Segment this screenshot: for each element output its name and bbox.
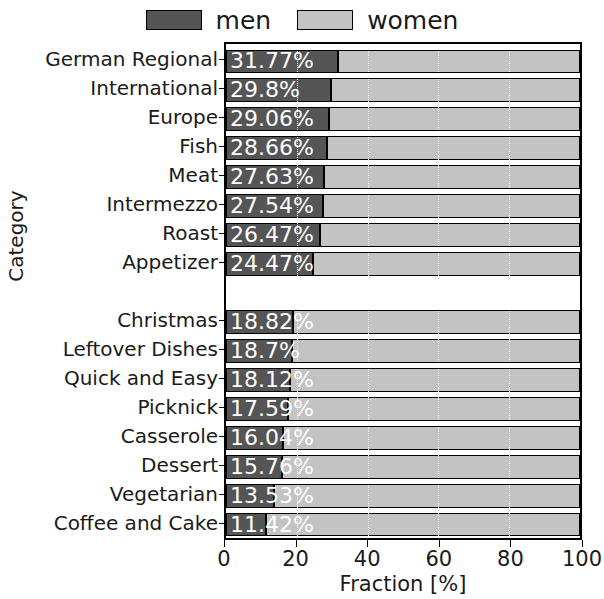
bar-row: 16.04% — [226, 426, 580, 449]
y-tick-mark — [219, 175, 224, 176]
y-tick-mark — [219, 146, 224, 147]
y-tick-mark — [219, 117, 224, 118]
bar-segment-women — [338, 50, 580, 73]
y-tick-mark — [219, 378, 224, 379]
bar-segment-women — [329, 107, 580, 130]
bar-row: 31.77% — [226, 50, 580, 73]
bar-segment-women — [288, 397, 580, 420]
bar-segment-women — [313, 252, 580, 275]
y-tick-label: German Regional — [0, 49, 218, 69]
bar-segment-men — [226, 136, 327, 159]
bar-segment-men — [226, 310, 293, 333]
legend-entry-women: women — [297, 8, 458, 33]
bar-segment-women — [331, 78, 580, 101]
x-tick-label: 100 — [562, 549, 602, 570]
bar-segment-men — [226, 78, 331, 101]
bar-row: 29.06% — [226, 107, 580, 130]
bar-segment-men — [226, 252, 313, 275]
bar-row: 27.63% — [226, 165, 580, 188]
legend-entry-men: men — [146, 8, 298, 33]
plot-inner: 31.77%29.8%29.06%28.66%27.63%27.54%26.47… — [226, 44, 580, 538]
y-tick-mark — [219, 262, 224, 263]
bar-segment-men — [226, 455, 282, 478]
legend-label-men: men — [216, 8, 272, 33]
y-tick-mark — [219, 523, 224, 524]
x-tick-mark — [510, 540, 511, 547]
x-tick-mark — [582, 540, 583, 547]
bar-segment-women — [292, 339, 580, 362]
y-tick-label: Coffee and Cake — [0, 513, 218, 533]
y-tick-label: International — [0, 78, 218, 98]
bar-segment-women — [323, 194, 580, 217]
bar-row: 28.66% — [226, 136, 580, 159]
y-tick-label: Quick and Easy — [0, 368, 218, 388]
x-tick-label: 60 — [425, 549, 452, 570]
bar-row: 18.82% — [226, 310, 580, 333]
x-tick-label: 40 — [354, 549, 381, 570]
bar-segment-men — [226, 165, 324, 188]
x-tick-label: 20 — [282, 549, 309, 570]
x-tick-label: 80 — [497, 549, 524, 570]
y-tick-mark — [219, 233, 224, 234]
bar-row: 24.47% — [226, 252, 580, 275]
bar-segment-men — [226, 50, 338, 73]
bar-segment-women — [290, 368, 580, 391]
y-tick-mark — [219, 59, 224, 60]
x-axis-ticks: 020406080100 — [224, 540, 582, 574]
y-tick-mark — [219, 465, 224, 466]
bar-segment-women — [266, 513, 580, 536]
bar-row: 18.7% — [226, 339, 580, 362]
legend-label-women: women — [367, 8, 458, 33]
y-tick-mark — [219, 436, 224, 437]
bar-segment-women — [283, 426, 580, 449]
y-tick-label: Dessert — [0, 455, 218, 475]
bar-segment-women — [324, 165, 580, 188]
bar-segment-men — [226, 426, 283, 449]
bar-chart-figure: men women Category 31.77%29.8%29.06%28.6… — [0, 0, 604, 599]
y-tick-label: Roast — [0, 223, 218, 243]
y-tick-mark — [219, 349, 224, 350]
y-tick-mark — [219, 407, 224, 408]
y-tick-label: Casserole — [0, 426, 218, 446]
y-tick-mark — [219, 88, 224, 89]
y-tick-label: Intermezzo — [0, 194, 218, 214]
y-tick-mark — [219, 494, 224, 495]
bar-row: 13.53% — [226, 484, 580, 507]
x-tick-mark — [224, 540, 225, 547]
bar-segment-women — [282, 455, 580, 478]
bar-segment-men — [226, 107, 329, 130]
bar-row: 15.76% — [226, 455, 580, 478]
x-tick-label: 0 — [217, 549, 230, 570]
bar-row: 11.42% — [226, 513, 580, 536]
y-tick-label: Leftover Dishes — [0, 339, 218, 359]
bar-segment-men — [226, 397, 288, 420]
bar-segment-men — [226, 194, 323, 217]
y-tick-label: Christmas — [0, 310, 218, 330]
y-tick-label: Europe — [0, 107, 218, 127]
y-tick-mark — [219, 204, 224, 205]
bar-segment-men — [226, 484, 274, 507]
bar-row: 29.8% — [226, 78, 580, 101]
bar-row: 26.47% — [226, 223, 580, 246]
bar-segment-women — [293, 310, 580, 333]
x-tick-mark — [439, 540, 440, 547]
bar-row: 27.54% — [226, 194, 580, 217]
bar-segment-men — [226, 223, 320, 246]
bar-segment-men — [226, 339, 292, 362]
plot-area: 31.77%29.8%29.06%28.66%27.63%27.54%26.47… — [224, 42, 582, 540]
y-tick-label: Appetizer — [0, 252, 218, 272]
y-tick-label: Picknick — [0, 397, 218, 417]
bar-segment-women — [320, 223, 580, 246]
x-tick-mark — [296, 540, 297, 547]
bar-segment-women — [327, 136, 580, 159]
bar-segment-women — [274, 484, 580, 507]
y-tick-label: Vegetarian — [0, 484, 218, 504]
bar-segment-men — [226, 368, 290, 391]
bar-segment-men — [226, 513, 266, 536]
legend-swatch-women — [297, 10, 353, 30]
y-tick-label: Fish — [0, 136, 218, 156]
chart-legend: men women — [0, 4, 604, 36]
x-tick-mark — [367, 540, 368, 547]
y-tick-mark — [219, 320, 224, 321]
legend-swatch-men — [146, 10, 202, 30]
